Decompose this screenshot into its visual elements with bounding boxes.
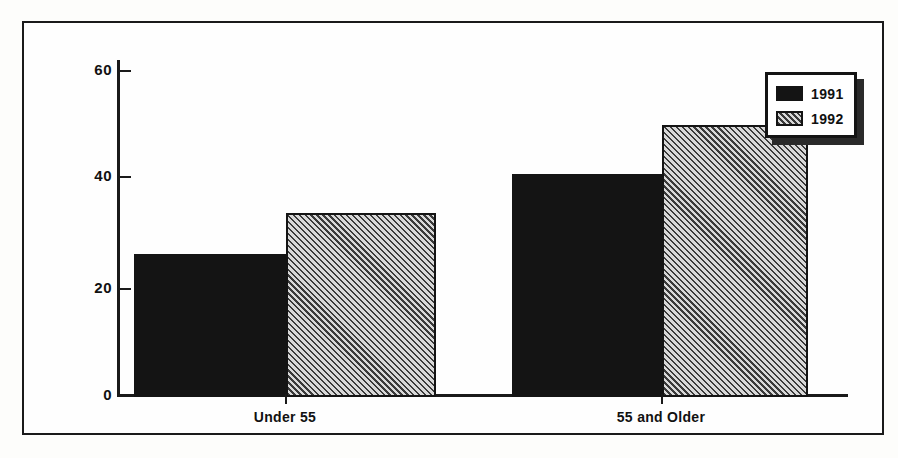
x-axis-label-under-55: Under 55	[205, 409, 365, 425]
bar-1991-under-55	[134, 254, 286, 397]
x-axis-tick-55-and-older	[661, 394, 663, 404]
y-axis-label-60-wrap: 60	[50, 61, 112, 77]
y-axis-label-0: 0	[52, 386, 112, 403]
y-axis-label-0-wrap: 0	[50, 386, 112, 402]
bar-1991-55-and-older	[512, 174, 662, 397]
legend-label-1991: 1991	[811, 86, 844, 102]
y-axis-line	[117, 60, 120, 397]
y-axis-label-20: 20	[52, 279, 112, 296]
legend-item-1992[interactable]: 1992	[776, 109, 844, 128]
chart-page: 60 40 20 0 Under 55 55 and Older	[0, 0, 898, 458]
bar-1992-under-55	[286, 213, 436, 397]
legend-label-1992: 1992	[811, 111, 844, 127]
plot-area: 60 40 20 0 Under 55 55 and Older	[0, 0, 898, 458]
x-axis-label-55-and-older: 55 and Older	[581, 409, 741, 425]
bar-1992-55-and-older	[662, 125, 808, 397]
legend-item-1991[interactable]: 1991	[776, 84, 844, 103]
y-axis-label-40: 40	[52, 167, 112, 184]
y-axis-tick-40	[120, 176, 131, 178]
y-axis-label-20-wrap: 20	[50, 279, 112, 295]
y-axis-label-60: 60	[52, 61, 112, 78]
y-axis-tick-0	[120, 394, 131, 396]
y-axis-label-40-wrap: 40	[50, 167, 112, 183]
legend: 1991 1992	[765, 72, 857, 138]
legend-swatch-1992	[776, 111, 803, 126]
y-axis-tick-20	[120, 288, 131, 290]
y-axis-tick-60	[120, 70, 131, 72]
legend-swatch-1991	[776, 86, 803, 101]
x-axis-tick-under-55	[285, 394, 287, 404]
